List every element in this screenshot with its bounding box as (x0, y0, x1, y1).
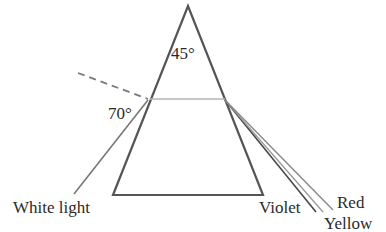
prism-diagram: 45° 70° White light Violet Red Yellow (0, 0, 386, 232)
violet-label: Violet (259, 198, 301, 217)
white-light-label: White light (13, 198, 90, 217)
normal-line (78, 73, 148, 99)
red-ray (225, 100, 333, 210)
prism (113, 6, 263, 195)
yellow-label: Yellow (324, 214, 373, 232)
red-label: Red (337, 193, 365, 212)
incidence-angle-label: 70° (108, 104, 132, 123)
apex-angle-label: 45° (171, 44, 195, 63)
